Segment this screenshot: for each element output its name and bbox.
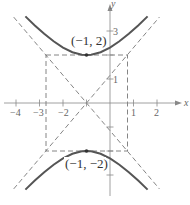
vertex-bottom-label: (−1, −2)	[65, 156, 108, 171]
x-tick-label: 1	[131, 107, 136, 118]
vertex-bottom-point	[85, 149, 89, 153]
x-axis-arrow-icon	[175, 101, 182, 106]
x-axis-label: x	[183, 97, 189, 108]
x-tick-label: −4	[10, 107, 21, 118]
vertex-top-label: (−1, 2)	[71, 33, 107, 48]
x-tick-label: 2	[154, 107, 159, 118]
y-tick-label: 1	[113, 74, 118, 85]
vertex-top-point	[85, 53, 89, 57]
x-tick-label: −2	[58, 107, 69, 118]
x-axis	[4, 100, 178, 107]
y-tick-label: 3	[113, 26, 118, 37]
x-tick-label: −3	[33, 107, 44, 118]
hyperbola-plot: x y −4 −3 −2 1 2 3 1 (−1, 2) (−1, −2)	[0, 0, 190, 205]
y-axis-label: y	[110, 0, 116, 9]
